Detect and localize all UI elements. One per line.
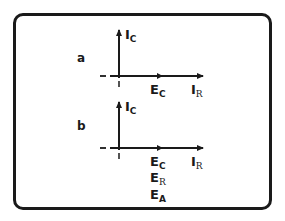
ec-label-a: EC [150,83,166,96]
ic-label-a: IC [125,28,136,41]
ir-label-b: IR [191,155,203,168]
panel-label-b: b [77,119,86,133]
ec-arrowhead-b [157,145,163,151]
panel-label-a: a [77,51,85,65]
panel-a-axes [100,30,203,87]
ec-arrowhead-a [157,73,163,79]
ea-label-b: EA [150,188,166,201]
ir-label-a: IR [191,83,203,96]
panel-b-axes [100,102,203,159]
phasor-diagram [0,0,285,221]
ic-label-b: IC [125,100,136,113]
ec-label-b: EC [150,155,166,168]
er-label-b: ER [150,171,166,184]
